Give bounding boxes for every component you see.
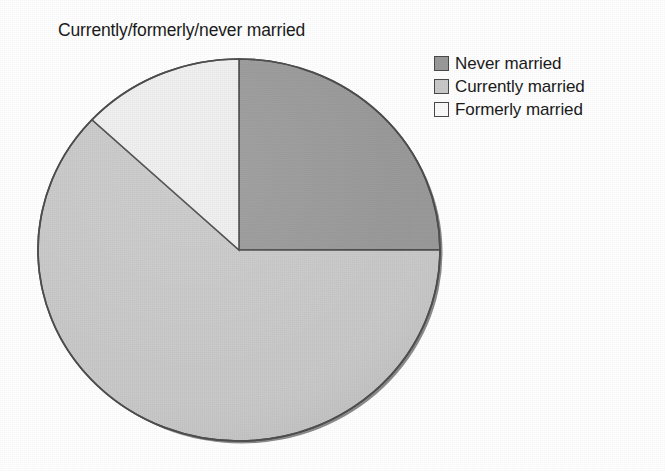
legend-item-formerly-married[interactable]: Formerly married	[434, 98, 664, 120]
chart-legend: Never married Currently married Formerly…	[434, 52, 664, 121]
legend-label-currently-married: Currently married	[455, 78, 585, 95]
legend-swatch-formerly-married	[434, 102, 449, 117]
legend-item-never-married[interactable]: Never married	[434, 52, 664, 74]
legend-label-never-married: Never married	[455, 55, 561, 72]
pie-chart-figure: Currently/formerly/never married Never m…	[0, 0, 665, 471]
legend-item-currently-married[interactable]: Currently married	[434, 75, 664, 97]
legend-swatch-currently-married	[434, 79, 449, 94]
pie-sheen-overlay	[38, 59, 440, 441]
legend-label-formerly-married: Formerly married	[455, 101, 583, 118]
legend-swatch-never-married	[434, 56, 449, 71]
